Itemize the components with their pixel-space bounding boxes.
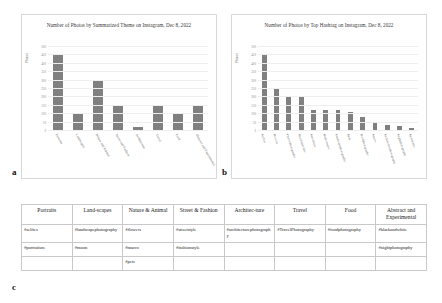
x-label-slot: #flowers	[270, 132, 282, 180]
bar	[193, 105, 202, 130]
gridline	[48, 130, 208, 131]
chart-panel-b: Number of Photos by Top Hashtag on Insta…	[231, 14, 427, 179]
x-label-slot: #landscapephotography	[332, 132, 344, 180]
x-label-slot: #portraiture	[406, 132, 418, 180]
x-tick-label: #pets	[347, 133, 353, 140]
table-cell-hashtag: #streetstyle	[173, 224, 224, 242]
table-cell-empty	[22, 256, 73, 270]
table-cell-hashtag: #foodphotography	[325, 224, 376, 242]
x-tick-label: #flowers	[273, 133, 280, 145]
chart-a-x-tick-labels: PortraitsLandscapesNature and AnimalStre…	[48, 132, 208, 180]
chart-b-plot-area	[258, 47, 418, 131]
chart-b-title: Number of Photos by Top Hashtag on Insta…	[238, 22, 420, 29]
y-tick-label: 450	[251, 53, 256, 57]
gridline	[48, 113, 208, 114]
bar	[262, 54, 267, 130]
x-tick-label: #streetstyle	[310, 133, 318, 148]
table-cell-hashtag: #fashionstyle	[173, 242, 224, 256]
chart-panel-a: Number of Photos by Summarized Theme on …	[21, 14, 217, 179]
x-label-slot: Travel	[148, 132, 168, 180]
y-tick-label: 0	[44, 129, 46, 133]
table-column-header: Street & Fashion	[173, 205, 224, 225]
chart-b-y-tick-labels: 050100150200250300350400450500	[240, 47, 257, 131]
x-tick-label: Abstract and Experimental	[195, 133, 217, 166]
x-label-slot: Food	[168, 132, 188, 180]
gridline	[258, 80, 418, 81]
x-tick-label: #portraiture	[408, 133, 416, 148]
table-cell-empty	[173, 256, 224, 270]
chart-b-x-tick-labels: #selfies#flowers#TravelPhotography#black…	[258, 132, 418, 180]
y-tick-label: 500	[41, 45, 46, 49]
gridline	[48, 80, 208, 81]
x-label-slot: Portraits	[48, 132, 68, 180]
gridline	[258, 122, 418, 123]
table-cell-hashtag: #selfies	[22, 224, 73, 242]
y-tick-label: 200	[251, 95, 256, 99]
table-cell-hashtag: #landscapephotography	[72, 224, 123, 242]
y-tick-label: 300	[251, 79, 256, 83]
x-tick-label: Landscapes	[75, 133, 86, 149]
bar	[153, 105, 162, 130]
gridline	[48, 105, 208, 106]
table-cell-empty	[275, 256, 326, 270]
gridline	[48, 96, 208, 97]
panel-letter-c: c	[12, 282, 16, 292]
x-label-slot: Landscapes	[68, 132, 88, 180]
panel-letter-b: b	[222, 167, 227, 177]
gridline	[48, 71, 208, 72]
table-column-header: Travel	[275, 205, 326, 225]
chart-a-plot-area	[48, 47, 208, 131]
table-cell-empty	[72, 256, 123, 270]
y-tick-label: 0	[254, 129, 256, 133]
bar	[113, 105, 122, 130]
x-label-slot: #TravelPhotography	[283, 132, 295, 180]
table-column-header: Architec-ture	[224, 205, 275, 225]
theme-hashtag-table: PortraitsLand-scapesNature & AnimalStree…	[21, 204, 427, 271]
x-label-slot: Abstract and Experimental	[188, 132, 208, 180]
x-tick-label: Food	[175, 133, 182, 141]
y-tick-label: 150	[251, 104, 256, 108]
table-cell-hashtag: #macro	[123, 242, 174, 256]
gridline	[48, 63, 208, 64]
chart-a-title: Number of Photos by Summarized Theme on …	[28, 22, 210, 29]
gridline	[258, 46, 418, 47]
y-tick-label: 400	[41, 62, 46, 66]
x-tick-label: Architecture	[135, 133, 147, 150]
x-label-slot: #selfies	[258, 132, 270, 180]
y-tick-label: 500	[251, 45, 256, 49]
table-row: #selfies#landscapephotography#flowers#st…	[22, 224, 427, 242]
x-label-slot: #fashionstyle	[320, 132, 332, 180]
gridline	[48, 122, 208, 123]
x-tick-label: #blackandwhite	[297, 133, 307, 153]
bar	[373, 122, 378, 130]
table-cell-empty	[224, 256, 275, 270]
table-header-row: PortraitsLand-scapesNature & AnimalStree…	[22, 205, 427, 225]
y-tick-label: 350	[41, 70, 46, 74]
table-column-header: Abstract and Experimental	[376, 205, 427, 225]
y-tick-label: 450	[41, 53, 46, 57]
theme-hashtag-table-container: PortraitsLand-scapesNature & AnimalStree…	[21, 204, 427, 271]
x-label-slot: #foodphotography	[357, 132, 369, 180]
y-tick-label: 100	[251, 112, 256, 116]
table-column-header: Land-scapes	[72, 205, 123, 225]
x-tick-label: Travel	[155, 133, 163, 143]
table-cell-empty	[325, 242, 376, 256]
bar	[53, 54, 62, 130]
x-label-slot: Nature and Animal	[88, 132, 108, 180]
gridline	[258, 88, 418, 89]
x-label-slot: Architecture	[128, 132, 148, 180]
y-tick-label: 200	[41, 95, 46, 99]
x-tick-label: #macro	[371, 133, 378, 143]
table-column-header: Portraits	[22, 205, 73, 225]
table-cell-empty	[275, 242, 326, 256]
y-tick-label: 400	[251, 62, 256, 66]
table-cell-empty	[376, 256, 427, 270]
x-tick-label: #selfies	[260, 133, 267, 143]
x-label-slot: #nightphotography	[393, 132, 405, 180]
y-tick-label: 250	[251, 87, 256, 91]
table-column-header: Food	[325, 205, 376, 225]
table-body: #selfies#landscapephotography#flowers#st…	[22, 224, 427, 271]
table-cell-hashtag: #portraiture	[22, 242, 73, 256]
table-row: #pets	[22, 256, 427, 270]
gridline	[258, 113, 418, 114]
